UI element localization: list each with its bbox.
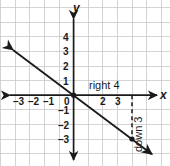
tick-y-neg3: –3 <box>58 135 69 145</box>
y-axis-label: y <box>73 2 80 14</box>
tick-x-neg3: –3 <box>13 97 24 107</box>
coordinate-plane-figure: y x 0 –3 –2 –1 2 3 1 2 3 4 –1 –2 –3 righ… <box>0 0 170 166</box>
tick-x-2: 2 <box>100 97 106 107</box>
tick-y-neg1: –1 <box>58 106 69 116</box>
tick-y-4: 4 <box>63 33 69 43</box>
tick-x-neg2: –2 <box>28 97 39 107</box>
tick-y-3: 3 <box>63 47 69 57</box>
graph-canvas <box>0 0 170 166</box>
grid-lines <box>0 0 170 166</box>
rise-annotation: down 3 <box>133 117 144 152</box>
tick-x-neg1: –1 <box>43 97 54 107</box>
tick-y-1: 1 <box>63 77 69 87</box>
point-origin <box>71 93 76 98</box>
tick-y-neg2: –2 <box>58 121 69 131</box>
tick-y-2: 2 <box>63 62 69 72</box>
x-axis-label: x <box>160 89 167 101</box>
tick-x-3: 3 <box>115 97 121 107</box>
run-annotation: right 4 <box>89 80 120 91</box>
